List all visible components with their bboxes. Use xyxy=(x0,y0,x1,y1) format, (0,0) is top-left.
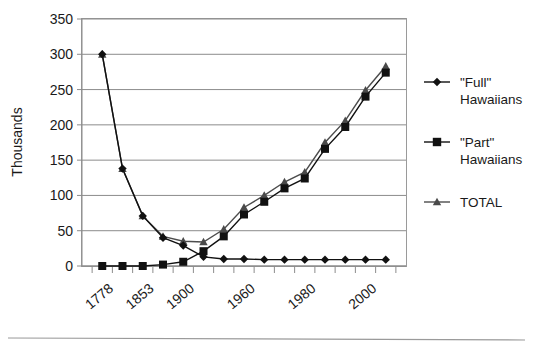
y-tick-label: 100 xyxy=(50,187,74,203)
y-axis: 050100150200250300350 xyxy=(50,11,82,274)
series-2 xyxy=(98,69,390,270)
data-point-diamond xyxy=(301,255,309,263)
legend-item-2[interactable]: "Part"Hawaiians xyxy=(424,135,523,167)
x-tick-label: 2000 xyxy=(345,280,379,312)
y-axis-title-text: Thousands xyxy=(9,107,25,176)
data-point-diamond xyxy=(433,78,441,86)
page-bottom-rule xyxy=(8,338,525,340)
series-1 xyxy=(98,50,390,264)
legend-label: "Part" xyxy=(460,135,495,150)
data-point-triangle xyxy=(280,178,288,186)
x-tick-label: 1778 xyxy=(82,280,116,312)
data-point-square xyxy=(362,93,370,101)
series-polyline xyxy=(102,54,386,259)
data-point-diamond xyxy=(321,255,329,263)
data-point-triangle xyxy=(382,62,390,70)
y-tick-label: 350 xyxy=(50,11,74,27)
data-point-square xyxy=(240,210,248,218)
y-tick-label: 300 xyxy=(50,46,74,62)
x-axis-labels: 177818531900196019802000 xyxy=(82,280,380,312)
y-tick-label: 150 xyxy=(50,152,74,168)
y-axis-title: Thousands xyxy=(9,107,25,176)
x-axis-ticks xyxy=(82,266,406,273)
chart-container: 050100150200250300350 177818531900196019… xyxy=(0,0,533,348)
legend-label-line2: Hawaiians xyxy=(460,92,523,107)
data-point-square xyxy=(301,174,309,182)
data-point-diamond xyxy=(280,255,288,263)
chart-legend: "Full"Hawaiians"Part"HawaiiansTOTAL xyxy=(424,75,523,210)
data-point-square xyxy=(98,262,106,270)
gridlines xyxy=(82,19,406,266)
y-tick-label: 0 xyxy=(65,258,73,274)
y-tick-label: 250 xyxy=(50,82,74,98)
y-tick-label: 50 xyxy=(57,223,73,239)
data-point-square xyxy=(433,138,441,146)
data-point-square xyxy=(341,123,349,131)
data-point-square xyxy=(321,145,329,153)
legend-label: "Full" xyxy=(460,75,492,90)
data-point-square xyxy=(260,198,268,206)
data-point-square xyxy=(119,262,127,270)
legend-label-line2: Hawaiians xyxy=(460,152,523,167)
data-point-square xyxy=(281,184,289,192)
data-point-square xyxy=(200,247,208,255)
x-tick-label: 1900 xyxy=(163,280,197,312)
x-tick-label: 1853 xyxy=(122,280,156,312)
data-point-diamond xyxy=(341,255,349,263)
data-point-square xyxy=(159,261,167,269)
plot-frame xyxy=(82,19,407,267)
x-tick-label: 1980 xyxy=(284,280,318,312)
legend-item-1[interactable]: "Full"Hawaiians xyxy=(424,75,523,107)
data-point-square xyxy=(139,262,147,270)
data-point-diamond xyxy=(220,255,228,263)
data-point-square xyxy=(220,232,228,240)
data-point-diamond xyxy=(382,255,390,263)
legend-label: TOTAL xyxy=(460,195,503,210)
x-tick-label: 1960 xyxy=(224,280,258,312)
data-point-diamond xyxy=(240,255,248,263)
series-polyline xyxy=(102,73,386,266)
data-point-triangle xyxy=(240,203,248,211)
y-tick-label: 200 xyxy=(50,117,74,133)
data-point-diamond xyxy=(361,255,369,263)
line-chart: 050100150200250300350 177818531900196019… xyxy=(0,0,533,348)
legend-item-3[interactable]: TOTAL xyxy=(424,195,503,210)
data-point-diamond xyxy=(260,255,268,263)
data-point-square xyxy=(382,69,390,77)
data-point-square xyxy=(179,258,187,266)
